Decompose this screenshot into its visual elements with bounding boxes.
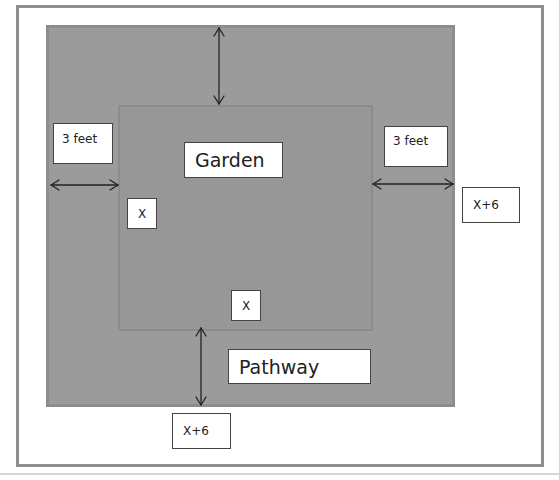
left-double-arrow-icon — [51, 180, 118, 190]
right-width-label: 3 feet — [384, 126, 448, 167]
right-double-arrow-icon — [373, 179, 453, 189]
garden-side-bottom-label: X — [231, 290, 261, 321]
garden-side-left-label: X — [127, 198, 157, 229]
top-double-arrow-icon — [214, 28, 224, 104]
left-width-label: 3 feet — [53, 123, 113, 164]
dimension-arrows — [0, 0, 559, 480]
outer-side-bottom-label: X+6 — [172, 413, 231, 449]
pathway-label: Pathway — [228, 349, 371, 384]
bottom-double-arrow-icon — [196, 328, 206, 405]
garden-label: Garden — [184, 142, 283, 178]
outer-side-right-label: X+6 — [462, 187, 520, 223]
